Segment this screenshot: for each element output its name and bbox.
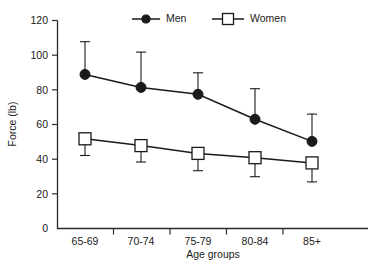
data-point-men-1 [136, 82, 146, 92]
legend-entry-men: Men [132, 12, 187, 24]
x-label-80-84: 80-84 [242, 235, 269, 247]
data-point-men-0 [80, 69, 90, 79]
open-square-icon [223, 14, 234, 25]
legend-label-men: Men [166, 12, 187, 24]
x-axis-tick-labels: 65-69 70-74 75-79 80-84 85+ [72, 235, 321, 247]
chart-container: Men Women 120 100 [0, 0, 376, 262]
y-tick-label-60: 60 [36, 118, 48, 130]
data-point-women-2 [192, 147, 204, 159]
data-point-women-3 [249, 152, 261, 164]
filled-circle-icon [142, 15, 150, 23]
y-axis-tick-labels: 120 100 80 60 40 20 0 [30, 14, 48, 234]
y-tick-label-20: 20 [36, 188, 48, 200]
data-point-men-2 [193, 89, 203, 99]
data-point-women-4 [306, 157, 318, 169]
error-bar-men-1 [136, 52, 146, 87]
line-chart-svg: Men Women 120 100 [0, 0, 376, 262]
data-point-women-0 [79, 133, 91, 145]
y-tick-label-120: 120 [30, 14, 48, 26]
x-axis-ticks [114, 229, 284, 235]
data-point-men-4 [307, 136, 317, 146]
y-tick-label-80: 80 [36, 84, 48, 96]
x-label-85plus: 85+ [303, 235, 321, 247]
data-point-women-1 [135, 140, 147, 152]
axis-spines [58, 21, 369, 229]
legend-label-women: Women [250, 12, 286, 24]
y-tick-label-0: 0 [42, 222, 48, 234]
data-point-men-3 [250, 114, 260, 124]
series-women [79, 133, 318, 182]
x-label-75-79: 75-79 [185, 235, 212, 247]
y-axis-ticks [52, 21, 58, 194]
x-label-65-69: 65-69 [72, 235, 99, 247]
legend-entry-women: Women [212, 12, 286, 25]
chart-legend: Men Women [132, 12, 286, 25]
series-men [80, 42, 317, 147]
y-tick-label-100: 100 [30, 49, 48, 61]
y-tick-label-40: 40 [36, 153, 48, 165]
x-label-70-74: 70-74 [128, 235, 155, 247]
y-axis-title: Force (lb) [6, 102, 18, 147]
x-axis-title: Age groups [186, 248, 240, 260]
